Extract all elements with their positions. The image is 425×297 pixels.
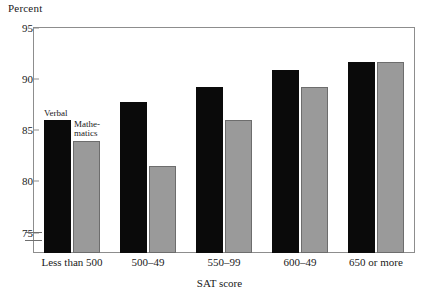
legend-label-mathematics: Mathe-matics xyxy=(74,120,108,139)
axis-break-mark xyxy=(25,232,42,233)
x-axis-title: SAT score xyxy=(0,277,425,289)
x-tick-label: 550–99 xyxy=(208,256,241,268)
y-tick-mark xyxy=(33,28,39,29)
y-tick-label: 95 xyxy=(7,22,33,34)
y-tick-label: 85 xyxy=(7,124,33,136)
bar-verbal xyxy=(272,70,299,253)
x-tick-label: 600–49 xyxy=(284,256,317,268)
bar-group: VerbalMathe-matics xyxy=(44,28,100,253)
y-tick-mark xyxy=(33,181,39,182)
bar-verbal xyxy=(348,62,375,253)
chart-page: Percent 7580859095 VerbalMathe-matics Le… xyxy=(0,0,425,297)
legend-label-verbal: Verbal xyxy=(44,109,68,119)
x-tick-label: 650 or more xyxy=(349,256,403,268)
x-tick-label: 500–49 xyxy=(132,256,165,268)
bar-group xyxy=(348,28,404,253)
axis-break-mark xyxy=(25,240,42,241)
x-axis-title-label: SAT score xyxy=(183,277,242,289)
bar-group xyxy=(272,28,328,253)
bar-mathematics xyxy=(73,141,100,254)
bar-group xyxy=(120,28,176,253)
bar-mathematics xyxy=(301,87,328,253)
x-tick-label: Less than 500 xyxy=(41,256,102,268)
y-tick-mark xyxy=(33,79,39,80)
bar-mathematics xyxy=(149,166,176,253)
bar-verbal xyxy=(196,87,223,253)
legend-label-mathematics-line2: matics xyxy=(74,129,108,139)
y-tick-label: 90 xyxy=(7,73,33,85)
y-axis: 7580859095 xyxy=(0,0,33,297)
y-tick-label: 80 xyxy=(7,175,33,187)
bar-mathematics xyxy=(225,120,252,253)
bar-verbal xyxy=(120,102,147,253)
bars-layer: VerbalMathe-matics xyxy=(34,28,414,253)
bar-group xyxy=(196,28,252,253)
y-tick-mark xyxy=(33,130,39,131)
bar-verbal xyxy=(44,120,71,253)
bar-mathematics xyxy=(377,62,404,253)
